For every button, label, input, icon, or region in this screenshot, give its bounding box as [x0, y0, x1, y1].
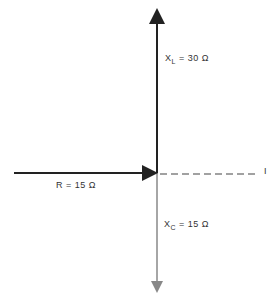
current-label: I: [264, 166, 267, 176]
r-label: R = 15 Ω: [56, 180, 96, 190]
xc-label: XC = 15 Ω: [164, 219, 209, 231]
phasor-diagram: [0, 0, 276, 304]
xl-label: XL = 30 Ω: [165, 53, 209, 65]
